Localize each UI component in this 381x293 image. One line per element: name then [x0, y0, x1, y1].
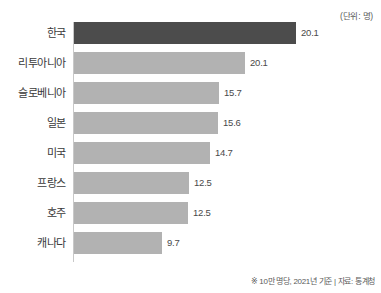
category-label: 호주	[0, 202, 66, 224]
bar-row: 캐나다9.7	[0, 232, 381, 262]
bar	[74, 82, 219, 104]
bar-value-label: 15.6	[223, 112, 241, 134]
bar	[74, 112, 218, 134]
bar-value-label: 20.1	[250, 52, 268, 74]
category-label: 슬로베니아	[0, 82, 66, 104]
chart-footnote: ※ 10만 명당, 2021년 기준 | 자료: 통계청	[251, 275, 375, 286]
bar	[74, 232, 162, 254]
unit-note: (단위: 명)	[340, 9, 373, 21]
bar-value-label: 14.7	[215, 142, 233, 164]
bar-row: 한국20.1	[0, 22, 381, 52]
bar-value-label: 9.7	[167, 232, 180, 254]
bar	[74, 202, 188, 224]
bar	[74, 172, 189, 194]
bar	[74, 142, 210, 164]
bar-row: 호주12.5	[0, 202, 381, 232]
plot-area: 한국20.1리투아니아20.1슬로베니아15.7일본15.6미국14.7프랑스1…	[0, 22, 381, 262]
bar-value-label: 20.1	[301, 22, 319, 44]
category-label: 리투아니아	[0, 52, 66, 74]
bar-row: 미국14.7	[0, 142, 381, 172]
bar-chart: (단위: 명) 한국20.1리투아니아20.1슬로베니아15.7일본15.6미국…	[0, 0, 381, 293]
category-label: 일본	[0, 112, 66, 134]
bar-value-label: 15.7	[224, 82, 242, 104]
bar	[74, 52, 245, 74]
bar-row: 프랑스12.5	[0, 172, 381, 202]
bar-value-label: 12.5	[193, 202, 211, 224]
bar-row: 슬로베니아15.7	[0, 82, 381, 112]
bar-row: 리투아니아20.1	[0, 52, 381, 82]
category-label: 캐나다	[0, 232, 66, 254]
category-label: 한국	[0, 22, 66, 44]
bar-row: 일본15.6	[0, 112, 381, 142]
category-label: 프랑스	[0, 172, 66, 194]
bar-rows: 한국20.1리투아니아20.1슬로베니아15.7일본15.6미국14.7프랑스1…	[0, 22, 381, 262]
bar	[74, 22, 296, 44]
category-label: 미국	[0, 142, 66, 164]
bar-value-label: 12.5	[194, 172, 212, 194]
